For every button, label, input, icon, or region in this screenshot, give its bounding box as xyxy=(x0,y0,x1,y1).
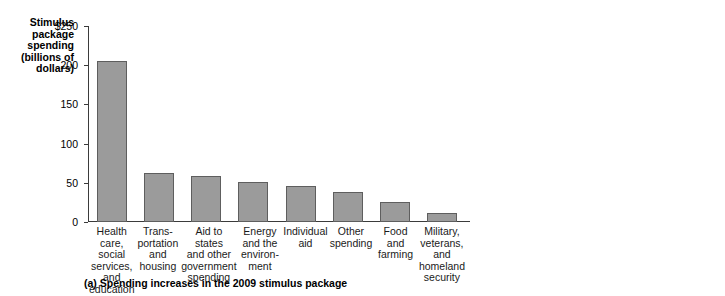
y-tick-spending-0: 0 xyxy=(84,222,88,223)
bar-slot xyxy=(135,26,182,222)
bar xyxy=(333,192,363,222)
bar-slot xyxy=(277,26,324,222)
bar-slot xyxy=(324,26,371,222)
bar-slot xyxy=(88,26,135,222)
category-label: Military, veterans, and homeland securit… xyxy=(418,226,466,295)
bar xyxy=(144,173,174,222)
bar xyxy=(191,176,221,222)
stimulus-package-figure: Stimulus package spending (billions of d… xyxy=(0,0,725,296)
bar xyxy=(286,186,316,222)
y-tick-label-spending-100: 100 xyxy=(60,138,78,150)
y-tick-label-spending-150: 150 xyxy=(60,98,78,110)
bar xyxy=(380,202,410,222)
bar-slot xyxy=(419,26,466,222)
bar-slot xyxy=(183,26,230,222)
bar-slot xyxy=(230,26,277,222)
chart-panel-tax-cuts: Tax cuts (billions of dollars) 050100150… xyxy=(470,0,725,296)
y-tick-label-spending-0: 0 xyxy=(72,216,78,228)
bar-group-spending xyxy=(88,26,466,222)
bar xyxy=(427,213,457,222)
bar-slot xyxy=(372,26,419,222)
plot-area-spending: 050100150200$250 xyxy=(88,26,466,222)
bar xyxy=(97,61,127,222)
category-label: Food and farming xyxy=(373,226,418,295)
caption-spending: (a) Spending increases in the 2009 stimu… xyxy=(84,277,347,289)
bar xyxy=(238,182,268,222)
y-tick-label-spending-200: 200 xyxy=(60,59,78,71)
chart-panel-spending: Stimulus package spending (billions of d… xyxy=(0,0,470,296)
y-tick-label-spending-50: 50 xyxy=(66,177,78,189)
y-tick-label-spending-250: $250 xyxy=(55,20,78,32)
